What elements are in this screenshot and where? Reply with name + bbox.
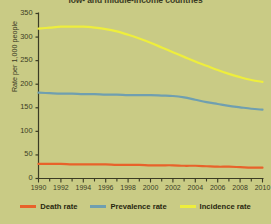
legend-swatch-icon bbox=[180, 205, 196, 208]
legend-item[interactable]: Prevalence rate bbox=[90, 202, 166, 211]
legend-label: Death rate bbox=[40, 202, 77, 211]
series-line-incidence-rate bbox=[39, 27, 263, 82]
series-line-prevalence-rate bbox=[39, 93, 263, 110]
legend-item[interactable]: Incidence rate bbox=[180, 202, 251, 211]
plot-area bbox=[0, 0, 271, 224]
legend-label: Incidence rate bbox=[200, 202, 251, 211]
axes bbox=[36, 13, 264, 183]
chart-container: low- and middle-income countries Rate pe… bbox=[0, 0, 271, 224]
series-line-death-rate bbox=[39, 164, 263, 168]
data-series-group bbox=[39, 27, 263, 168]
legend-swatch-icon bbox=[90, 205, 106, 208]
legend-swatch-icon bbox=[20, 205, 36, 208]
legend-label: Prevalence rate bbox=[110, 202, 166, 211]
chart-legend: Death ratePrevalence rateIncidence rate bbox=[0, 202, 271, 211]
legend-item[interactable]: Death rate bbox=[20, 202, 77, 211]
